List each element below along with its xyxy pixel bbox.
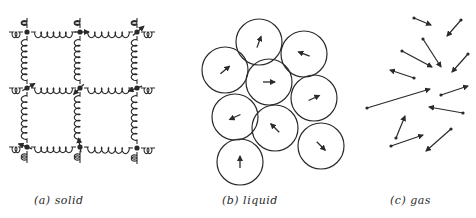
label-liquid: (b) liquid [222, 194, 278, 207]
solid-lattice-panel [9, 18, 155, 164]
liquid-circles-panel [202, 19, 344, 185]
gas-arrows-panel [365, 16, 469, 151]
label-gas: (c) gas [390, 194, 431, 207]
label-solid: (a) solid [34, 194, 83, 207]
states-of-matter-diagram [0, 0, 476, 218]
